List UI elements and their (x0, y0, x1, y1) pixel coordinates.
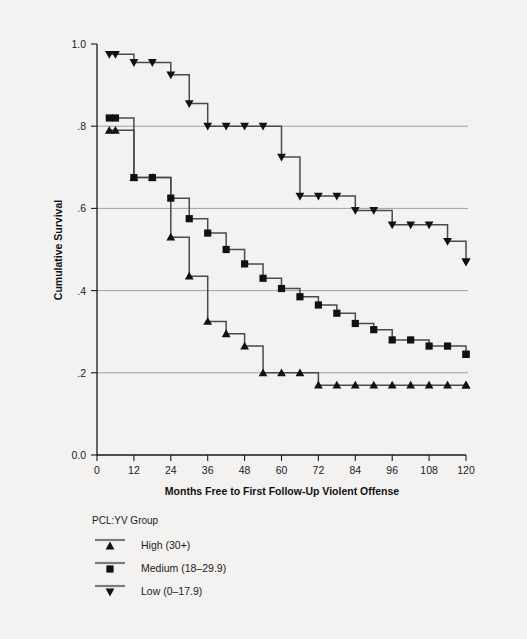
series-markers (105, 51, 471, 389)
y-tick-label: .8 (77, 120, 86, 132)
square-icon (112, 114, 119, 121)
x-tick-label: 60 (276, 464, 288, 476)
legend-title: PCL:YV Group (92, 515, 159, 526)
square-icon (204, 229, 211, 236)
survival-chart: 012243648607284961081200.0.2.4.6.81.0 Cu… (0, 0, 527, 639)
x-tick-label: 108 (420, 464, 438, 476)
axis-ticks (91, 44, 466, 461)
x-tick-label: 24 (165, 464, 177, 476)
x-tick-label: 84 (349, 464, 361, 476)
y-tick-label: .6 (77, 202, 86, 214)
legend-entry-label: Medium (18–29.9) (141, 562, 226, 574)
y-tick-label: 1.0 (71, 38, 86, 50)
x-axis-title: Months Free to First Follow-Up Violent O… (165, 485, 399, 497)
curve-medium (109, 118, 466, 354)
square-icon (296, 293, 303, 300)
x-tick-label: 48 (239, 464, 251, 476)
square-icon (444, 342, 451, 349)
figure-page: 012243648607284961081200.0.2.4.6.81.0 Cu… (0, 0, 527, 639)
square-icon (106, 114, 113, 121)
square-icon (370, 326, 377, 333)
triangle-up-icon (106, 542, 115, 550)
legend-entry-label: Low (0–17.9) (141, 585, 202, 597)
axis-spines (97, 44, 466, 455)
square-icon (106, 565, 113, 572)
square-icon (407, 336, 414, 343)
x-tick-label: 96 (386, 464, 398, 476)
square-icon (352, 320, 359, 327)
axes (97, 44, 466, 455)
y-tick-label: 0.0 (71, 449, 86, 461)
x-tick-label: 36 (202, 464, 214, 476)
x-tick-label: 120 (457, 464, 475, 476)
y-axis-title: Cumulative Survival (52, 200, 64, 300)
square-icon (186, 215, 193, 222)
square-icon (462, 351, 469, 358)
x-tick-label: 12 (128, 464, 140, 476)
triangle-down-icon (106, 589, 115, 597)
x-tick-label: 72 (313, 464, 325, 476)
y-tick-label: .2 (77, 367, 86, 379)
gridlines (97, 126, 468, 373)
triangle-down-icon (462, 258, 471, 266)
square-icon (223, 246, 230, 253)
legend: PCL:YV Group High (30+)Medium (18–29.9)L… (92, 515, 226, 597)
legend-entry-label: High (30+) (141, 539, 190, 551)
square-icon (315, 301, 322, 308)
square-icon (278, 285, 285, 292)
x-tick-label: 0 (94, 464, 100, 476)
axis-tick-labels: 012243648607284961081200.0.2.4.6.81.0 (71, 38, 475, 476)
square-icon (389, 336, 396, 343)
square-icon (241, 260, 248, 267)
square-icon (167, 195, 174, 202)
square-icon (426, 342, 433, 349)
curve-low (109, 54, 466, 262)
series-curves (109, 54, 466, 385)
curve-high (109, 130, 466, 385)
square-icon (333, 310, 340, 317)
y-tick-label: .4 (77, 285, 86, 297)
square-icon (259, 275, 266, 282)
